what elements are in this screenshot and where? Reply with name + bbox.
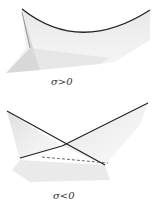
label-sigma-positive: σ>0	[51, 76, 73, 87]
bottom-surface	[7, 103, 148, 182]
label-sigma-negative: σ<0	[53, 190, 75, 201]
diagram-canvas	[0, 0, 154, 207]
top-surface	[6, 9, 150, 73]
